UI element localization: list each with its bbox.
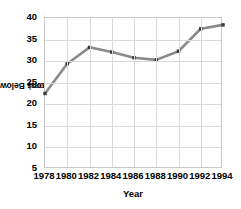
- y-axis-tick-label: 35: [26, 34, 37, 44]
- gridline-vertical: [134, 18, 135, 167]
- x-axis-tick-label: 1988: [145, 171, 166, 181]
- line-chart: Persons Below Poverty Level (in millions…: [0, 0, 241, 209]
- y-axis-tick-label: 25: [26, 77, 37, 87]
- gridline-vertical: [156, 18, 157, 167]
- gridline-horizontal: [45, 40, 221, 41]
- gridline-vertical: [90, 18, 91, 167]
- y-axis-tick-label: 15: [26, 120, 37, 130]
- gridline-horizontal: [45, 83, 221, 84]
- x-axis-tick-label: 1986: [122, 171, 143, 181]
- gridline-vertical: [201, 18, 202, 167]
- x-axis-tick-label: 1992: [189, 171, 210, 181]
- y-axis-tick-label: 30: [26, 55, 37, 65]
- x-axis-tick-label: 1990: [167, 171, 188, 181]
- plot-area: [44, 17, 222, 168]
- gridline-horizontal: [45, 126, 221, 127]
- gridline-vertical: [112, 18, 113, 167]
- data-point-marker: [43, 92, 46, 95]
- gridline-horizontal: [45, 147, 221, 148]
- gridline-vertical: [179, 18, 180, 167]
- y-axis-tick-label: 40: [26, 12, 37, 22]
- x-axis-tick-labels: 197819801982198419861988199019921994: [44, 171, 222, 185]
- x-axis-tick-label: 1980: [56, 171, 77, 181]
- x-axis-tick-label: 1984: [100, 171, 121, 181]
- x-axis-tick-label: 1994: [211, 171, 232, 181]
- x-axis-tick-label: 1982: [78, 171, 99, 181]
- y-axis-title: Persons Below Poverty Level (in millions…: [0, 0, 14, 172]
- y-axis-tick-label: 10: [26, 142, 37, 152]
- y-axis-tick-labels: 403530252015105: [14, 10, 40, 172]
- x-axis-title: Year: [44, 188, 222, 199]
- gridline-vertical: [67, 18, 68, 167]
- gridline-horizontal: [45, 61, 221, 62]
- data-point-marker: [221, 23, 224, 26]
- gridline-horizontal: [45, 104, 221, 105]
- x-axis-tick-label: 1978: [33, 171, 54, 181]
- y-axis-tick-label: 20: [26, 99, 37, 109]
